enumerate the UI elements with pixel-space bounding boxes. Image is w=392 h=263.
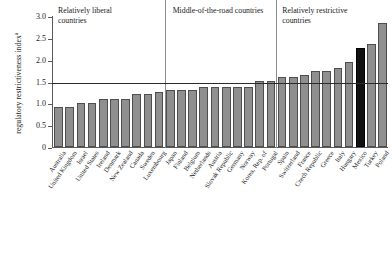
y-axis-title-text: regulatory restrictiveness index [14, 35, 23, 134]
bar-slot [209, 16, 220, 147]
bar-slot [176, 16, 187, 147]
bar [255, 81, 264, 147]
bar-slot [243, 16, 254, 147]
bar-slot [377, 16, 388, 147]
reference-line [52, 83, 388, 84]
bar-slot [109, 16, 120, 147]
y-axis-tick [48, 126, 52, 127]
bar [77, 103, 86, 147]
bar [88, 103, 97, 147]
y-axis-tick [48, 104, 52, 105]
bar-slot [75, 16, 86, 147]
bar-slot [221, 16, 232, 147]
y-axis-tick [48, 39, 52, 40]
bar-slot [165, 16, 176, 147]
bar-slot [343, 16, 354, 147]
plot-area: 00.51.01.52.02.53.0 Relatively liberal c… [52, 16, 388, 148]
bar-slot [187, 16, 198, 147]
bar-slot [232, 16, 243, 147]
group-caption: Middle-of-the-road countries [173, 6, 283, 16]
bar-slot [265, 16, 276, 147]
group-divider [276, 0, 277, 148]
y-axis-tick-label: 2.5 [36, 35, 46, 43]
bar [155, 92, 164, 147]
y-axis-tick-label: 1.5 [36, 79, 46, 87]
bar-slot [142, 16, 153, 147]
bar [244, 87, 253, 147]
bar-slot [355, 16, 366, 147]
bar-slot [120, 16, 131, 147]
bar [132, 94, 141, 147]
y-axis-tick-label: 2.0 [36, 57, 46, 65]
bar [54, 107, 63, 147]
bar [99, 99, 108, 147]
bar-slot [254, 16, 265, 147]
bar-slot [288, 16, 299, 147]
bar-slot [321, 16, 332, 147]
bar-slot [98, 16, 109, 147]
bar [367, 44, 376, 147]
bar [267, 81, 276, 147]
bar-slot [198, 16, 209, 147]
bar [289, 77, 298, 147]
bar [356, 48, 365, 147]
x-axis-labels: AustraliaUnited KingdomIsraelUnited Stat… [52, 150, 388, 262]
bar-slot [154, 16, 165, 147]
bar-series [53, 16, 388, 147]
bar-slot [332, 16, 343, 147]
bar [378, 23, 387, 147]
bar [166, 90, 175, 147]
bar-slot [366, 16, 377, 147]
bar-slot [276, 16, 287, 147]
group-divider [165, 0, 166, 148]
bar [211, 87, 220, 147]
y-axis-title-superscript: a [13, 33, 19, 35]
bar-slot [53, 16, 64, 147]
y-axis-tick-label: 0.5 [36, 122, 46, 130]
bar [222, 87, 231, 147]
bar [144, 94, 153, 147]
bar-slot [64, 16, 75, 147]
bar [188, 90, 197, 147]
group-caption: Relatively restrictive countries [282, 6, 360, 25]
x-axis-line [52, 147, 388, 148]
bar [300, 75, 309, 147]
bar [334, 68, 343, 147]
bar [345, 62, 354, 147]
bar [110, 99, 119, 147]
chart-figure: regulatory restrictiveness indexa 00.51.… [0, 0, 392, 263]
bar [199, 87, 208, 147]
y-axis-title: regulatory restrictiveness indexa [13, 13, 24, 153]
y-axis-tick-label: 0 [42, 144, 46, 152]
bar [278, 77, 287, 147]
y-axis-tick [48, 148, 52, 149]
bar-slot [131, 16, 142, 147]
y-axis-tick [48, 61, 52, 62]
bar [233, 87, 242, 147]
bar [121, 99, 130, 147]
bar [177, 90, 186, 147]
bar-slot [87, 16, 98, 147]
bar [65, 107, 74, 147]
y-axis-tick-label: 1.0 [36, 100, 46, 108]
bar-slot [310, 16, 321, 147]
group-caption: Relatively liberal countries [58, 6, 140, 25]
y-axis-tick-label: 3.0 [36, 13, 46, 21]
y-axis-tick [48, 17, 52, 18]
bar-slot [299, 16, 310, 147]
